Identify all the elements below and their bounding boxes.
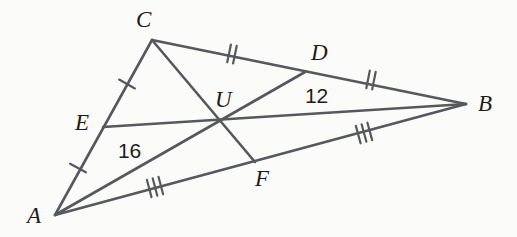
side-AB bbox=[55, 104, 466, 215]
vertex-label-d: D bbox=[311, 41, 328, 64]
tick-CD-stroke bbox=[233, 46, 237, 64]
vertex-label-a: A bbox=[27, 204, 41, 227]
tick-marks-group bbox=[70, 45, 376, 198]
median-BE bbox=[103, 104, 466, 127]
measure-label-ud: 12 bbox=[305, 85, 328, 106]
vertex-label-b: B bbox=[478, 92, 492, 115]
vertex-label-f: F bbox=[255, 167, 269, 190]
vertex-label-e: E bbox=[75, 111, 89, 134]
geometry-figure: A B C D E F U 16 12 bbox=[0, 0, 517, 237]
median-AD bbox=[55, 72, 305, 215]
tick-CD bbox=[227, 45, 237, 64]
tick-FB bbox=[356, 123, 372, 144]
vertex-label-c: C bbox=[136, 8, 151, 31]
vertex-label-u: U bbox=[215, 88, 232, 111]
tick-CD-stroke bbox=[227, 45, 231, 63]
tick-AF bbox=[147, 177, 163, 197]
measure-label-au: 16 bbox=[118, 140, 141, 161]
